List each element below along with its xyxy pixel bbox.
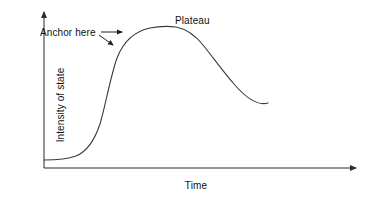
anchor-here-annotation-label: Anchor here: [40, 27, 96, 39]
anchor-arrow-diagonal: [99, 35, 113, 45]
chart-figure: Intensity of state Time Anchor here Plat…: [0, 0, 382, 201]
x-axis-label: Time: [170, 180, 222, 192]
intensity-curve: [44, 26, 268, 160]
y-axis-label: Intensity of state: [55, 40, 67, 170]
plateau-annotation-label: Plateau: [175, 15, 210, 27]
